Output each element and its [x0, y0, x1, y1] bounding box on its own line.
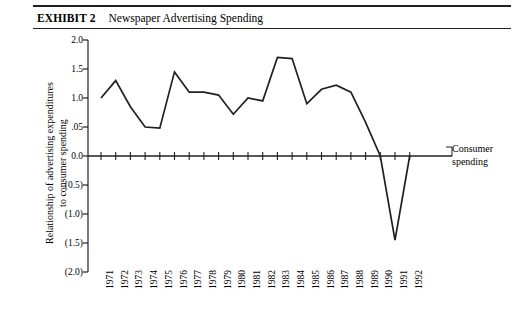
x-axis-tick-label: 1990 [384, 270, 394, 289]
x-axis-tick-label: 1981 [252, 270, 262, 289]
annotation-line-2: spending [452, 156, 493, 169]
x-axis-tick-label: 1984 [296, 270, 306, 289]
x-axis-tick-label: 1972 [120, 270, 130, 289]
x-axis-tick-label: 1974 [149, 270, 159, 289]
x-axis-tick-label: 1987 [340, 270, 350, 289]
x-axis-tick-label: 1979 [223, 270, 233, 289]
x-axis-tick-labels: 1971197219731974197519761977197819791980… [0, 0, 524, 317]
x-axis-tick-label: 1976 [179, 270, 189, 289]
x-axis-tick-label: 1985 [311, 270, 321, 289]
x-axis-tick-label: 1975 [164, 270, 174, 289]
x-axis-tick-label: 1991 [399, 270, 409, 289]
x-axis-tick-label: 1973 [134, 270, 144, 289]
x-axis-tick-label: 1971 [105, 270, 115, 289]
annotation-line-1: Consumer [452, 143, 493, 156]
exhibit-page: EXHIBIT 2 Newspaper Advertising Spending… [0, 0, 524, 317]
x-axis-tick-label: 1980 [237, 270, 247, 289]
y-axis-title: Relationship of advertising expenditures… [41, 38, 71, 288]
x-axis-tick-label: 1983 [281, 270, 291, 289]
y-axis-title-line-1: Relationship of advertising expenditures [43, 82, 56, 244]
x-axis-tick-label: 1988 [355, 270, 365, 289]
x-axis-tick-label: 1992 [414, 270, 424, 289]
x-axis-tick-label: 1989 [370, 270, 380, 289]
consumer-spending-annotation: Consumer spending [452, 143, 493, 168]
x-axis-tick-label: 1977 [193, 270, 203, 289]
line-chart: 2.01.51.0.050.0(0.5)(1.0)(1.5)(2.0) 1971… [0, 0, 524, 317]
x-axis-tick-label: 1978 [208, 270, 218, 289]
x-axis-tick-label: 1986 [326, 270, 336, 289]
x-axis-tick-label: 1982 [267, 270, 277, 289]
y-axis-title-line-2: to consumer spending [56, 119, 69, 207]
